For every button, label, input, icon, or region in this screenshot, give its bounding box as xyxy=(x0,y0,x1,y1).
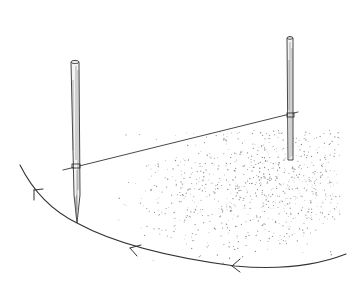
scribed-arc xyxy=(20,165,346,268)
left-stake xyxy=(71,60,80,223)
arc-arrow-icon xyxy=(34,189,43,200)
arc-arrow-icon xyxy=(232,259,240,272)
stippled-ground xyxy=(118,130,340,264)
string-line xyxy=(63,112,298,170)
stake-and-string-illustration xyxy=(0,0,361,296)
right-stake xyxy=(287,37,294,161)
arc-arrow-icon xyxy=(130,245,141,256)
